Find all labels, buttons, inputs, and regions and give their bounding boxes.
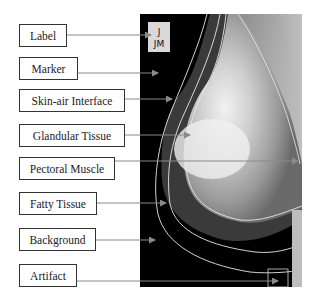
label-box-artifact: Artifact [19,264,77,287]
label-box-skin-air-interface: Skin-air Interface [19,89,125,112]
label-box-pectoral-muscle: Pectoral Muscle [19,157,115,180]
label-box-label: Label [19,24,67,47]
label-box-glandular-tissue: Glandular Tissue [19,124,125,147]
label-box-background: Background [19,228,96,251]
label-box-marker: Marker [19,57,78,80]
label-box-fatty-tissue: Fatty Tissue [19,192,97,215]
